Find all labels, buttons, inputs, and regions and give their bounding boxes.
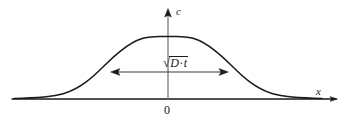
sqrt-dt-annotation: √ D·t <box>163 56 188 69</box>
origin-label: 0 <box>164 104 170 116</box>
radicand-time: t <box>184 56 187 70</box>
x-axis-label: x <box>316 86 321 97</box>
radical-sign-icon: √ <box>163 56 170 69</box>
radicand-group: D·t <box>169 56 188 69</box>
diffusion-gaussian-figure: c x 0 √ D·t <box>0 0 345 125</box>
radicand-diffusivity: D <box>170 56 179 70</box>
y-axis-label: c <box>176 6 181 17</box>
